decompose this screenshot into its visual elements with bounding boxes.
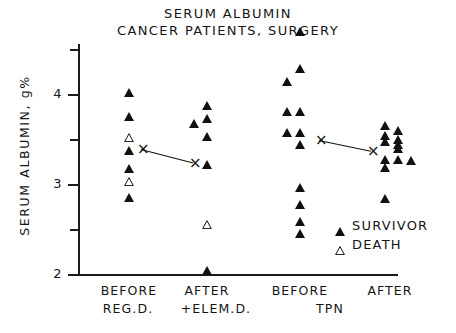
data-point-survivor <box>393 126 403 135</box>
x-group-label-1: AFTER <box>163 283 251 298</box>
y-tick-2-5 <box>70 229 80 231</box>
y-tick-2 <box>68 274 80 276</box>
survivor-triangle-icon <box>335 224 345 239</box>
data-point-survivor <box>282 77 292 86</box>
data-point-survivor <box>295 27 305 36</box>
data-point-survivor <box>393 144 403 153</box>
data-point-survivor <box>124 112 134 121</box>
legend-label-death: DEATH <box>352 237 402 252</box>
data-point-survivor <box>295 140 305 149</box>
data-point-survivor <box>124 193 134 202</box>
data-point-survivor <box>124 146 134 155</box>
data-point-survivor <box>124 88 134 97</box>
data-point-survivor <box>380 121 390 130</box>
data-point-survivor <box>202 160 212 169</box>
y-tick-4 <box>68 94 80 96</box>
data-point-survivor <box>295 64 305 73</box>
data-point-survivor <box>202 132 212 141</box>
x-group-label-0: BEFORE <box>85 283 173 298</box>
y-tick-label-2: 2 <box>40 266 62 281</box>
chart-root: SERUM ALBUMIN CANCER PATIENTS, SURGERY 4… <box>0 0 456 333</box>
y-tick-3 <box>68 184 80 186</box>
data-point-survivor <box>406 156 416 165</box>
data-point-survivor <box>282 107 292 116</box>
data-point-death <box>202 220 212 229</box>
x-treatment-label-0: REG.D. <box>78 301 178 316</box>
x-treatment-label-2: TPN <box>280 301 380 316</box>
data-point-survivor <box>380 194 390 203</box>
data-point-death <box>124 177 134 186</box>
y-tick-3-5 <box>70 139 80 141</box>
y-tick-4-5 <box>70 49 80 51</box>
data-point-death <box>124 133 134 142</box>
y-tick-label-3: 3 <box>40 176 62 191</box>
y-tick-label-4: 4 <box>40 86 62 101</box>
data-point-survivor <box>380 137 390 146</box>
y-axis-line <box>78 44 80 276</box>
data-point-survivor <box>282 128 292 137</box>
data-point-survivor <box>393 155 403 164</box>
x-group-label-3: AFTER <box>346 283 434 298</box>
data-point-survivor <box>295 200 305 209</box>
death-triangle-icon <box>335 243 345 258</box>
y-axis-title: SERUM ALBUMIN, g% <box>17 66 32 246</box>
data-point-survivor <box>295 183 305 192</box>
data-point-survivor <box>295 128 305 137</box>
legend-label-survivor: SURVIVOR <box>352 218 428 233</box>
data-point-survivor <box>202 266 212 275</box>
data-point-survivor <box>124 164 134 173</box>
x-axis-line <box>78 274 398 276</box>
x-treatment-label-1: +ELEM.D. <box>166 301 266 316</box>
data-point-survivor <box>202 101 212 110</box>
plot-area: 432 ×××× BEFOREAFTERBEFOREAFTERREG.D.+EL… <box>0 0 456 333</box>
data-point-survivor <box>202 114 212 123</box>
data-point-survivor <box>295 217 305 226</box>
data-point-survivor <box>295 107 305 116</box>
data-point-survivor <box>380 163 390 172</box>
data-point-survivor <box>295 229 305 238</box>
x-group-label-2: BEFORE <box>256 283 344 298</box>
data-point-survivor <box>189 119 199 128</box>
